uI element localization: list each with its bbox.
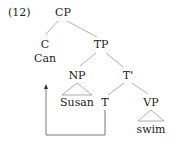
- word-swim: swim: [136, 123, 166, 136]
- vp-triangle: [138, 110, 164, 121]
- node-vp: VP: [142, 96, 159, 109]
- node-t-bar: T': [123, 69, 133, 82]
- word-can: Can: [34, 52, 56, 65]
- edge-tp-np: [80, 53, 96, 66]
- edge-tp-tbar: [106, 53, 123, 67]
- np-triangle: [62, 83, 92, 95]
- word-susan: Susan: [60, 96, 94, 109]
- node-t: T: [101, 96, 109, 109]
- example-number: (12): [8, 6, 31, 19]
- edge-tbar-t: [108, 83, 124, 95]
- node-np: NP: [68, 69, 86, 82]
- edge-cp-c: [46, 21, 58, 34]
- node-cp: CP: [55, 6, 71, 19]
- edge-cp-tp: [67, 21, 97, 37]
- syntax-tree-diagram: (12) CP C Can TP NP Susan T' T VP swim: [0, 0, 180, 149]
- edge-tbar-vp: [132, 83, 148, 94]
- arrowhead-icon: [44, 84, 48, 89]
- node-c: C: [41, 38, 49, 51]
- node-tp: TP: [94, 38, 109, 51]
